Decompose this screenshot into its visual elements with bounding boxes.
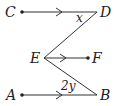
point-label-b: B <box>99 87 110 103</box>
segment-de <box>44 12 97 58</box>
point-label-c: C <box>5 4 16 20</box>
point-label-a: A <box>4 87 16 103</box>
point-f-dot <box>86 56 90 60</box>
point-label-e: E <box>29 50 40 66</box>
point-label-d: D <box>99 4 111 20</box>
angle-label-2y: 2y <box>60 79 76 93</box>
point-c-dot <box>20 10 24 14</box>
angle-label-x: x <box>76 11 83 25</box>
parallel-lines-diagram: C D E F A B x 2y <box>0 0 118 106</box>
point-label-f: F <box>91 50 103 66</box>
diagram-canvas: C D E F A B x 2y <box>0 0 118 106</box>
point-a-dot <box>20 93 24 97</box>
